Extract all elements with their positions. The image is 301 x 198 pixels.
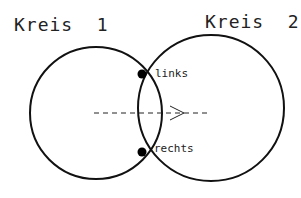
circle-kreis-2 xyxy=(138,35,284,181)
intersection-point-rechts xyxy=(138,148,147,157)
label-rechts: rechts xyxy=(154,142,194,155)
label-kreis-1: Kreis 1 xyxy=(14,14,109,35)
label-links: links xyxy=(155,67,188,80)
label-kreis-2: Kreis 2 xyxy=(205,11,300,32)
diagram-canvas: Kreis 1 Kreis 2 links rechts xyxy=(0,0,301,198)
intersection-point-links xyxy=(138,70,147,79)
